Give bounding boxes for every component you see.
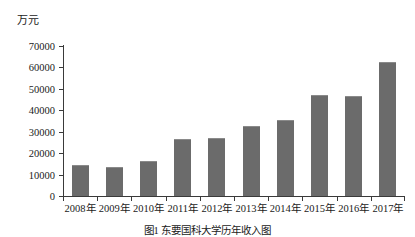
x-axis-tick xyxy=(97,197,98,201)
x-axis-tick xyxy=(302,197,303,201)
y-axis-tick-label: 10000 xyxy=(29,169,55,180)
x-axis-tick-label: 2010年 xyxy=(133,202,164,215)
bar xyxy=(277,120,294,196)
y-axis-tick xyxy=(59,46,63,47)
x-axis-tick-label: 2011年 xyxy=(167,202,198,215)
y-axis-tick xyxy=(59,110,63,111)
x-axis-tick xyxy=(166,197,167,201)
x-axis-tick-label: 2009年 xyxy=(99,202,130,215)
x-axis-tick-label: 2015年 xyxy=(304,202,335,215)
y-axis-tick-label: 20000 xyxy=(29,148,55,159)
y-axis-tick-label: 40000 xyxy=(29,105,55,116)
y-axis-tick-label: 30000 xyxy=(29,126,55,137)
bar xyxy=(140,161,157,196)
plot-area: 010000200003000040000500006000070000 xyxy=(63,46,405,196)
y-axis-tick-label: 60000 xyxy=(29,62,55,73)
bar xyxy=(208,138,225,196)
bar xyxy=(72,165,89,196)
y-axis-tick xyxy=(59,132,63,133)
x-axis-tick xyxy=(268,197,269,201)
bar xyxy=(174,139,191,196)
bar xyxy=(311,95,328,196)
x-axis-tick-label: 2012年 xyxy=(201,202,232,215)
x-axis-tick-label: 2008年 xyxy=(65,202,96,215)
x-axis-tick xyxy=(234,197,235,201)
x-axis-tick-label: 2017年 xyxy=(372,202,403,215)
x-axis-tick xyxy=(371,197,372,201)
y-axis-tick xyxy=(59,153,63,154)
y-axis-unit-label: 万元 xyxy=(17,14,39,27)
bar xyxy=(106,167,123,196)
bar xyxy=(243,126,260,196)
x-axis-tick-label: 2016年 xyxy=(338,202,369,215)
x-axis-tick xyxy=(337,197,338,201)
y-axis-tick-label: 70000 xyxy=(29,41,55,52)
x-axis-labels: 2008年2009年2010年2011年2012年2013年2014年2015年… xyxy=(63,202,405,216)
bar-chart-figure: 万元 010000200003000040000500006000070000 … xyxy=(0,0,415,237)
y-axis-tick xyxy=(59,175,63,176)
bar xyxy=(379,62,396,196)
y-axis-tick-label: 50000 xyxy=(29,83,55,94)
x-axis-tick xyxy=(200,197,201,201)
x-axis-tick xyxy=(63,197,64,201)
figure-caption: 图1 东要国科大学历年收入图 xyxy=(0,224,415,237)
y-axis-tick xyxy=(59,67,63,68)
x-axis-tick-label: 2013年 xyxy=(236,202,267,215)
bar xyxy=(345,96,362,196)
x-axis-tick-label: 2014年 xyxy=(270,202,301,215)
y-axis-tick xyxy=(59,89,63,90)
y-axis-tick-label: 0 xyxy=(50,191,55,202)
x-axis-tick xyxy=(404,197,405,201)
x-axis-tick xyxy=(131,197,132,201)
